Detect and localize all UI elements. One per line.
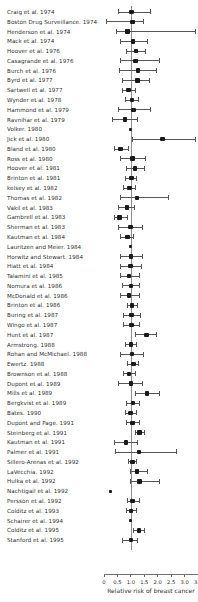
x-axis-tick-label: 3.0 (180, 579, 188, 585)
ci-lower-cap (118, 107, 119, 112)
estimate-marker-group (104, 340, 198, 350)
ci-upper-cap (135, 88, 136, 93)
study-label: Ravnihar et al. 1979 (0, 115, 104, 125)
forest-row: Kautman et al. 1991 (0, 437, 198, 447)
x-axis-tick-label: 0 (102, 579, 105, 585)
study-label: Horwitz and Stewart. 1984 (0, 252, 104, 262)
study-label: Ross et al. 1980 (0, 154, 104, 164)
study-label: Stanford et al. 1995 (0, 535, 104, 545)
point-estimate-marker (129, 538, 133, 542)
ci-lower-cap (126, 166, 127, 171)
point-estimate-marker (129, 10, 133, 14)
forest-row: Steinberg et al. 1991 (0, 428, 198, 438)
estimate-marker-group (104, 291, 198, 301)
study-label: Buring et al. 1987 (0, 310, 104, 320)
point-estimate-marker (131, 362, 135, 366)
ci-lower-cap (118, 381, 119, 386)
ci-upper-cap (149, 78, 150, 83)
forest-row: Boston Drug Surveillance. 1974 (0, 17, 198, 27)
point-estimate-marker (127, 372, 131, 376)
ci-upper-cap (136, 410, 137, 415)
ci-lower-cap (118, 205, 119, 210)
estimate-marker-group (104, 476, 198, 486)
point-estimate-marker (129, 245, 132, 248)
study-label: Sherman et al. 1983 (0, 222, 104, 232)
estimate-marker-group (104, 535, 198, 545)
estimate-marker-group (104, 212, 198, 222)
study-label: Rohan and McMichael. 1988 (0, 349, 104, 359)
ci-lower-cap (120, 39, 121, 44)
estimate-marker-group (104, 232, 198, 242)
forest-row: kelsey et al. 1982 (0, 183, 198, 193)
study-label: LaVecchia. 1992 (0, 467, 104, 477)
ci-lower-cap (126, 508, 127, 513)
study-label: Jick et al. 1980 (0, 134, 104, 144)
ci-lower-cap (118, 225, 119, 230)
forest-row: McDonald et al. 1986 (0, 291, 198, 301)
ci-upper-cap (145, 156, 146, 161)
study-rows-container: Craig et al. 1974Boston Drug Surveillanc… (0, 0, 198, 566)
x-axis: 00.51.01.52.02.53.03.5 Relative risk of … (104, 566, 198, 602)
ci-lower-cap (135, 391, 136, 396)
estimate-marker-group (104, 359, 198, 369)
ci-lower-cap (120, 273, 121, 278)
ci-upper-cap (176, 449, 177, 454)
forest-row: Horwitz and Stewart. 1984 (0, 252, 198, 262)
study-label: Sillero-Arenas et al. 1992 (0, 457, 104, 467)
ci-upper-cap (139, 283, 140, 288)
study-label: Gambrell et al. 1983 (0, 212, 104, 222)
study-label: McDonald et al. 1986 (0, 291, 104, 301)
ci-lower-cap (115, 449, 116, 454)
point-estimate-marker (130, 499, 134, 503)
ci-lower-cap (120, 195, 121, 200)
forest-row: Brinton et al. 1981 (0, 173, 198, 183)
forest-row: Lauritzen and Meier. 1984 (0, 242, 198, 252)
point-estimate-marker (127, 186, 131, 190)
point-estimate-marker (125, 235, 129, 239)
forest-row: Bland et al. 1980 (0, 144, 198, 154)
study-label: Brinton et al. 1981 (0, 173, 104, 183)
point-estimate-marker (135, 469, 139, 473)
estimate-marker-group (104, 486, 198, 496)
confidence-interval-line (119, 12, 150, 13)
forest-row: Kautman et al. 1984 (0, 232, 198, 242)
ci-lower-cap (130, 469, 131, 474)
estimate-marker-group (104, 75, 198, 85)
study-label: Mills et al. 1989 (0, 388, 104, 398)
study-label: Nachtigail et al. 1992 (0, 486, 104, 496)
forest-row: Hammond et al. 1979 (0, 105, 198, 115)
ci-lower-cap (126, 401, 127, 406)
estimate-marker-group (104, 271, 198, 281)
study-label: Lauritzen and Meier. 1984 (0, 242, 104, 252)
study-label: Casagrande et al. 1976 (0, 56, 104, 66)
ci-lower-cap (114, 215, 115, 220)
point-estimate-marker (137, 479, 141, 483)
point-estimate-marker (137, 430, 141, 434)
point-estimate-marker (130, 156, 134, 160)
forest-row: Ewertz. 1988 (0, 359, 198, 369)
study-label: Sartwell et al. 1977 (0, 85, 104, 95)
ci-upper-cap (144, 528, 145, 533)
ci-upper-cap (128, 146, 129, 151)
ci-upper-cap (147, 39, 148, 44)
ci-upper-cap (139, 322, 140, 327)
estimate-marker-group (104, 437, 198, 447)
point-estimate-marker (130, 20, 134, 24)
forest-row: Persson et al. 1992 (0, 496, 198, 506)
point-estimate-marker (133, 59, 137, 63)
point-estimate-marker (144, 333, 148, 337)
ci-lower-cap (119, 68, 120, 73)
point-estimate-marker (137, 528, 141, 532)
ci-upper-cap (138, 361, 139, 366)
forest-row: Mack et al. 1974 (0, 36, 198, 46)
ci-upper-cap (140, 313, 141, 318)
confidence-interval-line (131, 481, 160, 482)
forest-row: Talamini et al. 1985 (0, 271, 198, 281)
ci-upper-cap (135, 371, 136, 376)
estimate-marker-group (104, 398, 198, 408)
forest-row: Armstrong. 1988 (0, 340, 198, 350)
ci-lower-cap (122, 88, 123, 93)
ci-lower-cap (132, 137, 133, 142)
ci-upper-cap (136, 342, 137, 347)
study-label: Dupont and Page. 1991 (0, 418, 104, 428)
